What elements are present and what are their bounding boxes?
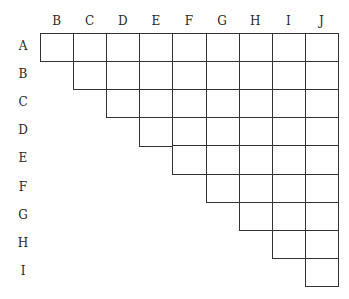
grid-cell bbox=[106, 61, 140, 90]
row-label: A bbox=[13, 39, 33, 53]
grid-cell bbox=[305, 145, 339, 174]
grid-cell bbox=[139, 61, 173, 90]
grid-cell bbox=[239, 202, 273, 231]
row-label: F bbox=[13, 180, 33, 194]
grid-cell bbox=[206, 89, 240, 118]
grid-cell bbox=[272, 33, 306, 62]
column-label: B bbox=[47, 14, 67, 28]
grid-cell bbox=[272, 61, 306, 90]
grid-cell bbox=[305, 33, 339, 62]
grid-cell bbox=[272, 145, 306, 174]
column-label: D bbox=[113, 14, 133, 28]
column-label: C bbox=[80, 14, 100, 28]
grid-cell bbox=[239, 61, 273, 90]
grid-cell bbox=[239, 89, 273, 118]
grid-cell bbox=[106, 89, 140, 118]
row-label: E bbox=[13, 151, 33, 165]
row-label: G bbox=[13, 208, 33, 222]
grid-cell bbox=[305, 117, 339, 146]
grid-cell bbox=[106, 33, 140, 62]
column-label: G bbox=[212, 14, 232, 28]
column-label: F bbox=[179, 14, 199, 28]
column-label: E bbox=[146, 14, 166, 28]
grid-cell bbox=[272, 89, 306, 118]
grid-cell bbox=[239, 117, 273, 146]
column-label: H bbox=[245, 14, 265, 28]
grid-cell bbox=[206, 117, 240, 146]
row-label: C bbox=[13, 95, 33, 109]
grid-cell bbox=[206, 33, 240, 62]
row-label: I bbox=[13, 264, 33, 278]
grid-cell bbox=[40, 33, 74, 62]
grid-cell bbox=[73, 33, 107, 62]
grid-cell bbox=[272, 117, 306, 146]
grid-cell bbox=[305, 258, 339, 287]
grid-cell bbox=[139, 89, 173, 118]
column-label: J bbox=[311, 14, 331, 28]
grid-cell bbox=[73, 61, 107, 90]
grid-cell bbox=[272, 230, 306, 259]
grid-cell bbox=[139, 33, 173, 62]
grid-cell bbox=[305, 202, 339, 231]
grid-cell bbox=[305, 230, 339, 259]
grid-cell bbox=[172, 145, 206, 174]
grid-cell bbox=[305, 61, 339, 90]
grid-cell bbox=[206, 61, 240, 90]
row-label: H bbox=[13, 236, 33, 250]
grid-cell bbox=[305, 89, 339, 118]
grid-cell bbox=[172, 89, 206, 118]
grid-cell bbox=[272, 202, 306, 231]
column-label: I bbox=[278, 14, 298, 28]
row-label: B bbox=[13, 67, 33, 81]
grid-cell bbox=[239, 33, 273, 62]
grid-cell bbox=[172, 33, 206, 62]
grid-cell bbox=[305, 174, 339, 203]
grid-cell bbox=[206, 145, 240, 174]
row-label: D bbox=[13, 123, 33, 137]
grid-cell bbox=[206, 174, 240, 203]
grid-cell bbox=[272, 174, 306, 203]
grid-cell bbox=[172, 117, 206, 146]
grid-cell bbox=[239, 174, 273, 203]
grid-cell bbox=[239, 145, 273, 174]
grid-cell bbox=[172, 61, 206, 90]
grid-cell bbox=[139, 117, 173, 146]
